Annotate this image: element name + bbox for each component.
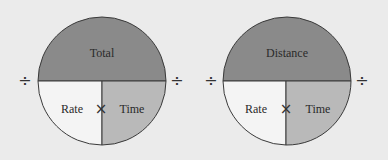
- divide-icon-right: ÷: [170, 71, 183, 90]
- multiply-icon: ×: [95, 100, 108, 118]
- multiply-icon: ×: [280, 100, 293, 118]
- divide-icon-left: ÷: [204, 71, 217, 90]
- divide-icon-right: ÷: [355, 71, 368, 90]
- diagram-total: Total Rate Time × ÷ ÷: [18, 17, 183, 145]
- rate-time-diagrams: Total Rate Time × ÷ ÷ Distance Rate Time…: [0, 0, 388, 160]
- diagram-distance: Distance Rate Time × ÷ ÷: [204, 17, 368, 145]
- top-label: Distance: [266, 46, 308, 60]
- time-label: Time: [306, 102, 331, 116]
- divide-icon-left: ÷: [18, 71, 31, 90]
- top-label: Total: [90, 46, 115, 60]
- rate-label: Rate: [61, 102, 83, 116]
- rate-label: Rate: [245, 102, 267, 116]
- time-label: Time: [120, 102, 145, 116]
